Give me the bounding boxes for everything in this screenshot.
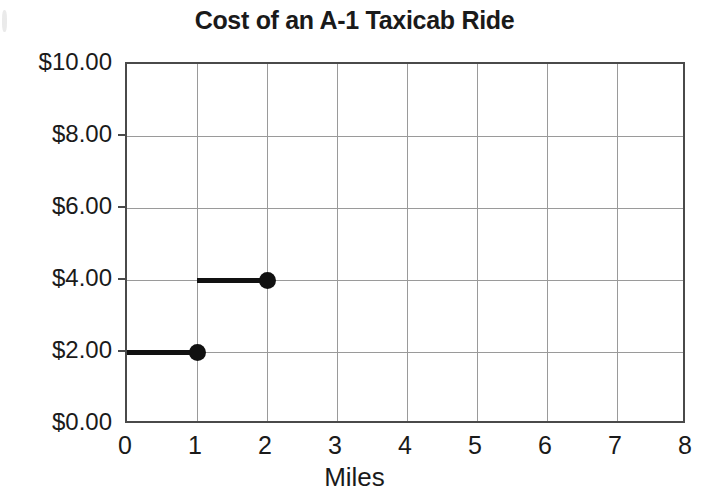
x-tick-label-0: 0	[105, 430, 145, 460]
x-tick-label-7: 7	[595, 430, 635, 460]
gridline-x-7	[617, 64, 618, 421]
y-tick-label-2: $6.00	[0, 194, 112, 218]
gridline-y-8	[127, 136, 683, 137]
gridline-y-2	[127, 352, 683, 353]
data-point-2	[259, 272, 276, 289]
y-tick-label-3: $4.00	[0, 266, 112, 290]
x-tick-label-2: 2	[245, 430, 285, 460]
data-point-1	[189, 344, 206, 361]
plot-area	[125, 62, 685, 423]
x-axis-title: Miles	[0, 462, 709, 493]
gridline-y-6	[127, 208, 683, 209]
x-tick-label-6: 6	[525, 430, 565, 460]
gridline-x-3	[337, 64, 338, 421]
x-tick-label-1: 1	[175, 430, 215, 460]
step-segment-2	[197, 278, 267, 283]
gridline-x-4	[407, 64, 408, 421]
x-axis-tick-labels: 0 1 2 3 4 5 6 7 8	[0, 430, 709, 462]
step-segment-1	[127, 350, 197, 355]
x-tick-label-3: 3	[315, 430, 355, 460]
y-tick-label-0: $10.00	[0, 50, 112, 74]
y-tick-label-1: $8.00	[0, 122, 112, 146]
gridline-x-1	[197, 64, 198, 421]
gridline-x-2	[267, 64, 268, 421]
x-tick-label-4: 4	[385, 430, 425, 460]
y-axis-tick-labels: $10.00 $8.00 $6.00 $4.00 $2.00 $0.00	[0, 0, 118, 496]
chart-screenshot: Cost of an A-1 Taxicab Ride $10.00 $8.00…	[0, 0, 709, 496]
y-tick-label-4: $2.00	[0, 338, 112, 362]
x-tick-label-5: 5	[455, 430, 495, 460]
gridline-x-6	[547, 64, 548, 421]
x-tick-label-8: 8	[665, 430, 705, 460]
gridline-x-5	[477, 64, 478, 421]
